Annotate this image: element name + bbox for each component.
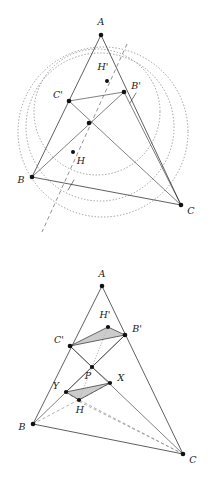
label-y: Y	[53, 380, 61, 391]
dashed-c-y	[64, 392, 183, 454]
dashed-c-h	[78, 401, 183, 454]
label-x: X	[117, 372, 126, 383]
bottom-dashed-lines	[33, 382, 183, 454]
segment-p-x	[92, 367, 110, 383]
bottom-cevians	[33, 335, 183, 454]
label-bprime-2: B'	[131, 323, 142, 334]
label-cprime-2: C'	[54, 334, 64, 345]
point-c-2	[181, 452, 186, 457]
point-cprime-2	[68, 344, 73, 349]
point-b-2	[31, 422, 36, 427]
point-h-2	[77, 398, 81, 402]
label-h-2: H	[75, 404, 85, 415]
segment-a-c-2	[102, 286, 183, 454]
point-a-2	[100, 284, 105, 289]
segment-a-b-2	[33, 286, 102, 424]
figure-bottom: A B C B' C' H' P X Y H	[0, 0, 215, 480]
label-a-2: A	[98, 268, 106, 279]
point-y	[64, 390, 68, 394]
point-bprime-2	[123, 333, 128, 338]
label-hprime-2: H'	[99, 309, 111, 320]
figure-sheet: A B C B' C' H' H	[0, 0, 215, 480]
point-p	[90, 365, 94, 369]
label-c-2: C	[189, 454, 197, 465]
point-hprime-2	[106, 325, 110, 329]
label-p: P	[84, 370, 92, 381]
point-x	[108, 381, 112, 385]
segment-b-c-2	[33, 424, 183, 454]
segment-cprime-p	[70, 346, 92, 367]
label-b-2: B	[18, 421, 26, 432]
